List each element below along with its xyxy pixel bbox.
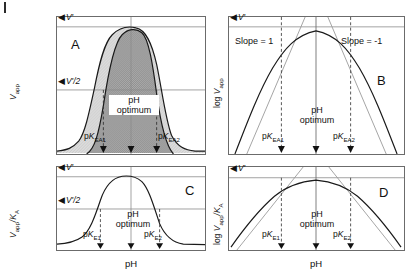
tick-vhalf-c: ◀V'/2 [58,195,80,205]
arrow-glyph: ◀ [58,13,65,21]
axis-tick-right [347,243,354,249]
slope-label-right-b: Slope = -1 [341,36,382,46]
annotation-line2: optimum [300,219,335,229]
pk-label-left-b: pKEA1 [262,131,284,143]
xlabel-panel-d: pH [281,258,351,269]
axis-tick-right [156,243,163,249]
ylabel-panel-d: log Vapp/KA [212,203,224,245]
annotation-ph-optimum-d: pH optimum [293,209,341,229]
annotation-line1: pH [127,209,139,219]
tick-vmax-b: ◀V' [230,12,245,22]
ylabel-panel-a: Vapp [8,84,20,100]
axis-tick-center [128,243,135,249]
annotation-line1: pH [128,95,140,105]
pk-label-right-c: pKE2 [144,229,162,241]
annotation-line1: pH [311,209,323,219]
annotation-line1: pH [311,105,323,115]
pk-label-left-a: pKEA1 [84,131,106,143]
ylabel-panel-c: Vapp/KA [8,210,20,238]
tick-vmax-d: ◀V' [230,163,245,173]
tick-vhalf-a: ◀V'/2 [58,76,80,86]
annotation-ph-optimum-a: pH optimum [109,95,159,115]
tick-vmax-c: ◀V' [58,162,73,172]
arrow-glyph: ◀ [230,164,237,172]
corner-crop-mark [4,2,6,13]
panel-letter-c: C [185,183,194,198]
pk-label-right-d: pKE2 [333,229,351,241]
panel-letter-b: B [377,73,386,88]
axis-tick-center [313,243,320,249]
arrow-glyph: ◀ [58,163,65,171]
panel-d: D pH optimum pKE1 pKE2 [228,166,405,251]
annotation-line2: optimum [117,105,152,115]
pk-label-left-c: pKE1 [83,229,101,241]
ylabel-panel-b: log Vapp [212,78,224,108]
axis-tick-center [313,146,320,153]
pk-label-left-d: pKE1 [262,229,280,241]
pk-label-right-b: pKEA2 [333,131,355,143]
slope-label-left-b: Slope = 1 [235,36,273,46]
axis-tick-right [347,146,354,153]
figure-root: A pH optimum pKEA1 pKEA2 ◀V' ◀V'/2 Vapp [0,0,413,278]
panel-letter-d: D [379,185,388,200]
panel-b: B Slope = 1 Slope = -1 pH optimum pKEA1 … [228,16,405,155]
xlabel-panel-c: pH [96,258,166,269]
arrow-glyph: ◀ [58,77,65,85]
axis-tick-left [97,243,104,249]
pk-label-right-a: pKEA2 [158,131,180,143]
panel-c: C pH optimum pKE1 pKE2 [56,166,206,251]
axis-tick-left [278,243,285,249]
annotation-line2: optimum [300,115,335,125]
annotation-ph-optimum-c: pH optimum [109,209,157,229]
arrow-glyph: ◀ [230,13,237,21]
annotation-ph-optimum-b: pH optimum [293,105,341,125]
arrow-glyph: ◀ [58,196,65,204]
annotation-line2: optimum [116,219,151,229]
tick-vmax-a: ◀V' [58,12,73,22]
axis-tick-left [278,146,285,153]
panel-letter-a: A [71,37,80,52]
